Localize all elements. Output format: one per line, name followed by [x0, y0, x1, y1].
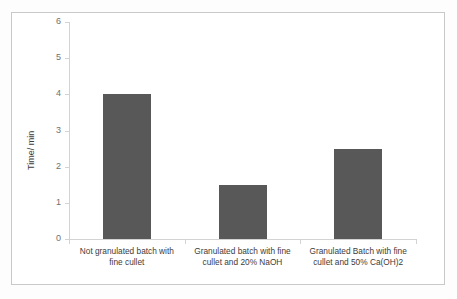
x-axis-line [69, 239, 416, 240]
x-axis-tick [416, 239, 417, 244]
y-axis-tick-label: 3 [39, 126, 61, 135]
x-axis-category-label-line: fine cullet [69, 257, 185, 268]
x-axis-tick [300, 239, 301, 244]
bar [219, 185, 267, 239]
y-axis-tick-label: 4 [39, 89, 61, 98]
y-axis-tick [65, 203, 70, 204]
x-axis-tick [69, 239, 70, 244]
y-axis-tick [65, 131, 70, 132]
y-axis-tick-label: 6 [39, 17, 61, 26]
y-axis-tick-label: 2 [39, 162, 61, 171]
bar [103, 94, 151, 239]
y-axis-tick [65, 94, 70, 95]
x-axis-category-label-line: Granulated Batch with fine [300, 246, 416, 257]
x-axis-category-label-line: cullet and 50% Ca(OH)2 [300, 257, 416, 268]
bar [334, 149, 382, 239]
y-axis-title: Time/ min [26, 131, 36, 170]
y-axis-tick [65, 167, 70, 168]
x-axis-category-label-line: Granulated batch with fine [185, 246, 301, 257]
y-axis-tick-label: 5 [39, 53, 61, 62]
figure: Time/ min 0123456 Not granulated batch w… [0, 0, 457, 299]
x-axis-category-label: Granulated batch with finecullet and 20%… [185, 246, 301, 268]
x-axis-category-label-line: Not granulated batch with [69, 246, 185, 257]
y-axis-tick-label: 1 [39, 198, 61, 207]
x-axis-category-label: Granulated Batch with finecullet and 50%… [300, 246, 416, 268]
x-axis-tick [185, 239, 186, 244]
y-axis-tick [65, 22, 70, 23]
y-axis-tick [65, 58, 70, 59]
x-axis-category-label-line: cullet and 20% NaOH [185, 257, 301, 268]
x-axis-category-label: Not granulated batch withfine cullet [69, 246, 185, 268]
y-axis-tick-label: 0 [39, 234, 61, 243]
